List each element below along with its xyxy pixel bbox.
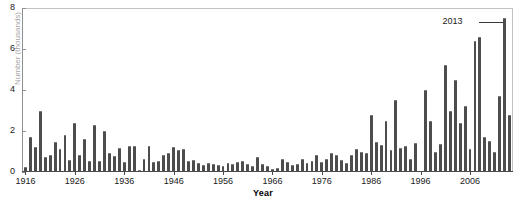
bar xyxy=(59,149,62,172)
bar xyxy=(311,161,314,172)
bar xyxy=(474,41,477,172)
bar xyxy=(385,121,388,172)
bar-cap xyxy=(59,149,62,150)
bar-cap xyxy=(227,163,230,164)
bar-cap xyxy=(503,18,506,19)
bar-series xyxy=(23,8,512,172)
bar xyxy=(39,111,42,173)
bar-cap xyxy=(68,160,71,161)
bar-cap xyxy=(54,142,57,143)
bar-cap xyxy=(409,159,412,160)
bar-cap xyxy=(380,145,383,146)
bar-cap xyxy=(320,162,323,163)
bar xyxy=(498,96,501,172)
bar xyxy=(231,164,234,172)
bar xyxy=(157,161,160,172)
bar-cap xyxy=(123,162,126,163)
x-tick-mark xyxy=(75,172,76,175)
bar-cap xyxy=(444,65,447,66)
y-tick-label: 0 xyxy=(10,167,15,176)
bar xyxy=(88,161,91,172)
bar-cap xyxy=(266,166,269,167)
bar xyxy=(103,131,106,172)
bar xyxy=(261,164,264,172)
bar-cap xyxy=(261,164,264,165)
bar xyxy=(152,162,155,172)
x-tick-label: 1996 xyxy=(411,176,431,186)
bar-cap xyxy=(340,160,343,161)
bar-cap xyxy=(152,162,155,163)
bar xyxy=(345,163,348,172)
bar xyxy=(464,106,467,172)
bar-cap xyxy=(385,121,388,122)
bar xyxy=(133,146,136,172)
bar xyxy=(409,159,412,172)
bar xyxy=(128,146,131,172)
y-tick-label: 2 xyxy=(10,126,15,135)
bar-cap xyxy=(49,155,52,156)
y-axis-title: Number (thousands) xyxy=(13,6,22,92)
bar xyxy=(419,171,422,172)
bar xyxy=(138,170,141,172)
bar xyxy=(148,146,151,172)
bar xyxy=(68,160,71,172)
bar xyxy=(246,164,249,172)
x-tick-mark xyxy=(421,172,422,175)
bar xyxy=(454,80,457,172)
bar-cap xyxy=(138,170,141,171)
x-tick-label: 1936 xyxy=(114,176,134,186)
bar xyxy=(493,152,496,173)
x-tick-mark xyxy=(322,172,323,175)
bar-cap xyxy=(325,159,328,160)
bar-cap xyxy=(345,163,348,164)
bar-cap xyxy=(246,164,249,165)
bar xyxy=(296,164,299,172)
bar xyxy=(236,162,239,172)
bar xyxy=(64,135,67,172)
bar xyxy=(508,115,511,172)
bar xyxy=(162,155,165,172)
bar xyxy=(202,165,205,172)
bar-cap xyxy=(192,160,195,161)
bar xyxy=(350,155,353,172)
bar-cap xyxy=(167,153,170,154)
bar-cap xyxy=(375,142,378,143)
bar-cap xyxy=(355,149,358,150)
bar-cap xyxy=(464,106,467,107)
bar xyxy=(222,166,225,172)
bar xyxy=(478,37,481,172)
bar xyxy=(380,145,383,172)
bar-cap xyxy=(93,125,96,126)
bar-cap xyxy=(103,131,106,132)
bar-cap xyxy=(365,153,368,154)
bar xyxy=(365,153,368,172)
bar-cap xyxy=(187,161,190,162)
bar xyxy=(325,159,328,172)
bar-cap xyxy=(286,162,289,163)
bar-cap xyxy=(399,148,402,149)
bar-cap xyxy=(78,155,81,156)
bar xyxy=(306,163,309,172)
bar xyxy=(93,125,96,172)
bar-cap xyxy=(157,161,160,162)
bar xyxy=(355,149,358,172)
bar-cap xyxy=(508,115,511,116)
bar-cap xyxy=(64,135,67,136)
x-tick-label: 1966 xyxy=(262,176,282,186)
annotation-2013-label: 2013 xyxy=(443,17,463,26)
bar-cap xyxy=(113,156,116,157)
bar-cap xyxy=(404,146,407,147)
bar-cap xyxy=(306,163,309,164)
x-tick-mark xyxy=(272,172,273,175)
bar xyxy=(276,168,279,172)
bar-cap xyxy=(424,90,427,91)
bar-cap xyxy=(390,150,393,151)
bar xyxy=(187,161,190,172)
bar xyxy=(434,152,437,173)
bar xyxy=(167,153,170,172)
bar xyxy=(266,166,269,172)
bar xyxy=(439,144,442,172)
bar-cap xyxy=(429,121,432,122)
x-tick-label: 1956 xyxy=(213,176,233,186)
bar xyxy=(24,167,27,172)
